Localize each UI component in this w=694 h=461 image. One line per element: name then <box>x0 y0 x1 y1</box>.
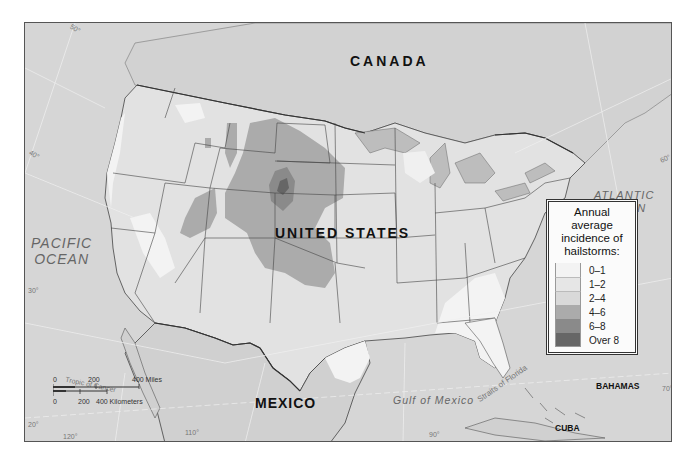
legend-label: 1–2 <box>589 279 606 290</box>
legend-swatch-0-1 <box>555 263 581 277</box>
label-united-states: UNITED STATES <box>275 225 410 241</box>
scale-miles-400: 400 Miles <box>132 376 162 383</box>
pacific-line1: PACIFIC <box>31 235 92 251</box>
legend-item: 0–1 <box>555 263 629 277</box>
label-mexico: MEXICO <box>255 395 316 411</box>
legend-title-line1: Annual average <box>555 206 629 232</box>
legend-item: 1–2 <box>555 277 629 291</box>
grat-90: 90° <box>429 431 440 438</box>
legend-swatch-4-6 <box>555 305 581 319</box>
legend-label: Over 8 <box>589 335 619 346</box>
legend-swatch-6-8 <box>555 319 581 333</box>
legend-item: 2–4 <box>555 291 629 305</box>
legend-label: 4–6 <box>589 307 606 318</box>
legend-label: 6–8 <box>589 321 606 332</box>
scale-km-0: 0 <box>53 398 57 405</box>
legend-title-line3: hailstorms: <box>555 245 629 258</box>
legend-swatch-1-2 <box>555 277 581 291</box>
label-canada: CANADA <box>350 53 429 69</box>
scale-miles-200: 200 <box>88 376 100 383</box>
legend-label: 2–4 <box>589 293 606 304</box>
label-bahamas: BAHAMAS <box>596 381 639 391</box>
legend-swatch-over-8 <box>555 333 581 347</box>
grat-30: 30° <box>28 287 39 294</box>
scale-miles-0: 0 <box>53 376 57 383</box>
legend-label: 0–1 <box>589 265 606 276</box>
legend: Annual average incidence of hailstorms: … <box>546 199 638 355</box>
pacific-line2: OCEAN <box>31 251 92 267</box>
grat-110: 110° <box>185 429 199 436</box>
label-pacific-ocean: PACIFIC OCEAN <box>31 235 92 267</box>
label-cuba: CUBA <box>555 423 580 433</box>
scale-km-400: 400 Kilometers <box>96 398 143 405</box>
legend-title-line2: incidence of <box>555 232 629 245</box>
legend-item: 4–6 <box>555 305 629 319</box>
legend-item: Over 8 <box>555 333 629 347</box>
grat-70: 70° <box>662 385 672 392</box>
grat-120: 120° <box>63 433 77 440</box>
legend-title: Annual average incidence of hailstorms: <box>555 206 629 258</box>
label-gulf-of-mexico: Gulf of Mexico <box>393 394 474 406</box>
legend-swatch-2-4 <box>555 291 581 305</box>
grat-20: 20° <box>28 421 39 428</box>
legend-item: 6–8 <box>555 319 629 333</box>
zone-4-6-idaho <box>205 138 211 148</box>
scale-km-200: 200 <box>78 398 90 405</box>
